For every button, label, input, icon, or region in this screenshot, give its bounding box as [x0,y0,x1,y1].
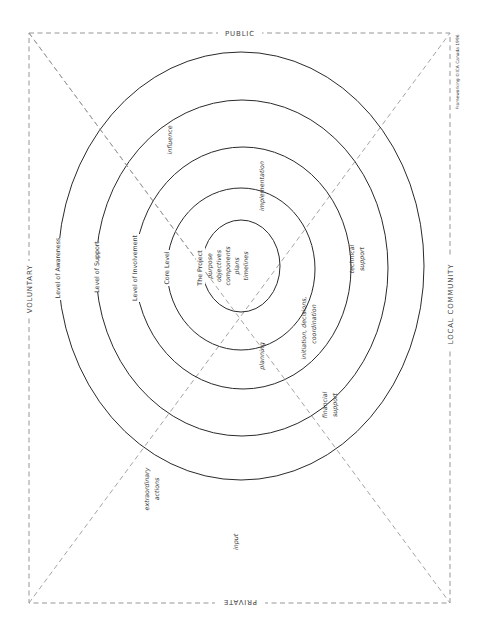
diagonal-overlay-b [271,258,450,603]
area-label-extraordinary: extraordinary [143,467,151,510]
area-label-influence: influence [166,125,173,154]
center-item-purpose: purpose [206,253,214,280]
area-label-input: input [232,533,240,550]
center-item-plans: plans [233,257,241,276]
ring-label-support: Level of Support [93,241,101,293]
area-label-technical-support: support [358,246,366,271]
area-label-coordination: coordination [310,304,317,343]
edge-label-public: PUBLIC [225,30,255,38]
center-item-objectives: objectives [215,249,223,282]
copyright-credit: Frameworking ©ICA Canada 1996 [455,34,460,109]
ring-awareness [58,52,424,480]
area-label-financial: financial [321,391,328,418]
edge-label-voluntary: VOLUNTARY [26,265,34,314]
ring-label-awareness: Level of Awareness [54,238,61,299]
ring-label-involvement: Level of Involvement [131,235,138,301]
center-item-timelines: timelines [242,251,249,281]
edge-label-local-community: LOCAL COMMUNITY [447,264,455,344]
area-label-financial-support: support [331,392,339,417]
ring-label-project: The Project [196,250,204,287]
area-label-implementation: implementation [258,161,266,211]
area-label-initiation: initiation, decisions, [300,297,307,360]
stakeholder-rings-diagram: PUBLIC PRIVATE VOLUNTARY LOCAL COMMUNITY… [0,0,482,630]
edge-label-private: PRIVATE [223,598,257,606]
area-label-technical: technical [348,244,355,273]
area-label-actions: actions [153,477,160,500]
ring-label-core: Core Level [163,251,170,284]
area-label-planning: planning [258,342,266,370]
center-item-components: components [224,246,232,286]
ring-core [167,188,315,350]
ring-project [202,220,280,312]
